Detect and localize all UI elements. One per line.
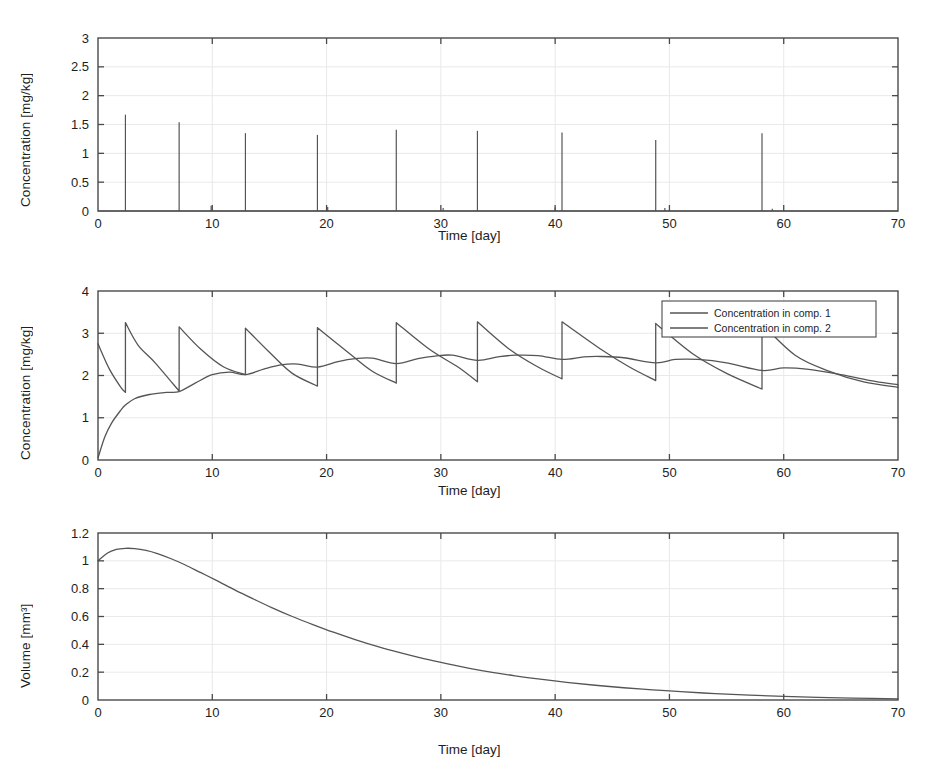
svg-text:1: 1 bbox=[82, 146, 89, 161]
svg-text:50: 50 bbox=[662, 705, 676, 720]
svg-text:10: 10 bbox=[205, 216, 219, 231]
panel-top-plot: 01020304050607000.511.522.53 bbox=[0, 0, 931, 255]
svg-text:0: 0 bbox=[82, 453, 89, 468]
svg-text:1.2: 1.2 bbox=[71, 526, 89, 541]
panel-middle-plot: 01020304050607001234Concentration in com… bbox=[0, 255, 931, 510]
svg-text:4: 4 bbox=[82, 284, 89, 299]
svg-text:Concentration in comp. 1: Concentration in comp. 1 bbox=[714, 307, 831, 319]
svg-text:30: 30 bbox=[434, 705, 448, 720]
svg-text:40: 40 bbox=[548, 216, 562, 231]
svg-text:20: 20 bbox=[319, 216, 333, 231]
svg-text:0: 0 bbox=[82, 693, 89, 708]
panel-bottom-plot: 01020304050607000.20.40.60.811.2 bbox=[0, 510, 931, 776]
svg-text:0.2: 0.2 bbox=[71, 665, 89, 680]
legend: Concentration in comp. 1Concentration in… bbox=[662, 301, 876, 337]
svg-text:2: 2 bbox=[82, 368, 89, 383]
svg-text:20: 20 bbox=[319, 705, 333, 720]
svg-text:3: 3 bbox=[82, 326, 89, 341]
panel-top-y-axis-label: Concentration [mg/kg] bbox=[18, 32, 33, 207]
svg-text:0.6: 0.6 bbox=[71, 609, 89, 624]
svg-text:10: 10 bbox=[205, 465, 219, 480]
svg-text:40: 40 bbox=[548, 705, 562, 720]
svg-text:0.5: 0.5 bbox=[71, 175, 89, 190]
svg-text:1: 1 bbox=[82, 553, 89, 568]
svg-text:0.4: 0.4 bbox=[71, 637, 89, 652]
panel-middle-x-axis-label: Time [day] bbox=[438, 483, 501, 498]
svg-text:70: 70 bbox=[891, 465, 905, 480]
svg-text:1: 1 bbox=[82, 410, 89, 425]
svg-text:3: 3 bbox=[82, 31, 89, 46]
panel-bottom-y-axis-label: Volume [mm³] bbox=[18, 538, 33, 688]
svg-text:40: 40 bbox=[548, 465, 562, 480]
svg-text:0: 0 bbox=[94, 216, 101, 231]
panel-bottom-x-axis-label: Time [day] bbox=[438, 742, 501, 757]
svg-text:0.8: 0.8 bbox=[71, 581, 89, 596]
svg-text:0: 0 bbox=[94, 705, 101, 720]
svg-text:0: 0 bbox=[82, 204, 89, 219]
svg-text:50: 50 bbox=[662, 465, 676, 480]
svg-text:60: 60 bbox=[776, 705, 790, 720]
svg-text:20: 20 bbox=[319, 465, 333, 480]
panel-top: Concentration [mg/kg] 01020304050607000.… bbox=[0, 0, 931, 255]
svg-text:10: 10 bbox=[205, 705, 219, 720]
svg-text:Concentration in comp. 2: Concentration in comp. 2 bbox=[714, 322, 831, 334]
svg-text:1.5: 1.5 bbox=[71, 117, 89, 132]
svg-text:2: 2 bbox=[82, 88, 89, 103]
svg-text:0: 0 bbox=[94, 465, 101, 480]
svg-text:2.5: 2.5 bbox=[71, 59, 89, 74]
svg-text:60: 60 bbox=[776, 465, 790, 480]
panel-bottom: Volume [mm³] 01020304050607000.20.40.60.… bbox=[0, 510, 931, 776]
svg-text:70: 70 bbox=[891, 216, 905, 231]
svg-text:60: 60 bbox=[776, 216, 790, 231]
svg-text:70: 70 bbox=[891, 705, 905, 720]
svg-text:30: 30 bbox=[434, 465, 448, 480]
figure-container: Concentration [mg/kg] 01020304050607000.… bbox=[0, 0, 931, 776]
svg-text:50: 50 bbox=[662, 216, 676, 231]
panel-top-x-axis-label: Time [day] bbox=[438, 228, 501, 243]
panel-middle-y-axis-label: Concentration [mg/kg] bbox=[18, 285, 33, 460]
panel-middle: Concentration [mg/kg] 010203040506070012… bbox=[0, 255, 931, 510]
